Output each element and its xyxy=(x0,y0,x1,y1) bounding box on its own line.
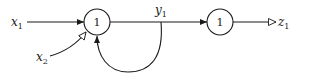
output-z1: z1 xyxy=(233,15,289,31)
input-x1: x1 xyxy=(11,15,84,31)
x2-to-node1-edge xyxy=(50,32,86,56)
node-2: 1 xyxy=(207,9,233,35)
node-1: 1 xyxy=(84,9,110,35)
input-x2-label: x2 xyxy=(36,50,48,66)
input-x1-label: x1 xyxy=(11,15,23,31)
network-diagram: x1 x2 1 y1 1 z1 xyxy=(0,0,320,78)
signal-y1: y1 xyxy=(110,3,207,22)
node-2-label: 1 xyxy=(217,16,224,29)
input-x2: x2 xyxy=(36,32,86,66)
output-z1-label: z1 xyxy=(277,15,289,31)
signal-y1-label: y1 xyxy=(154,3,167,19)
node-1-label: 1 xyxy=(94,16,101,29)
